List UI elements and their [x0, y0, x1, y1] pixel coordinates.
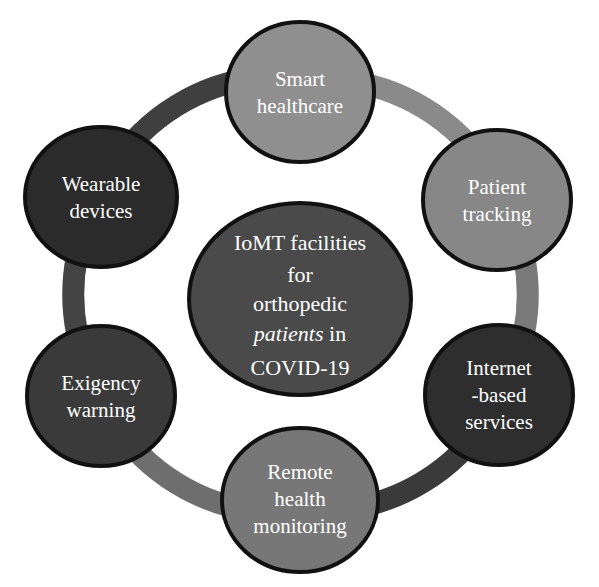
- node-smart-healthcare[interactable]: Smart healthcare: [226, 22, 374, 162]
- center-node-line-2: for: [287, 262, 313, 287]
- node-internet-based-services-label-line-1: Internet: [466, 356, 531, 380]
- center-node-line-3: orthopedic: [253, 291, 347, 316]
- center-node[interactable]: IoMT facilities for orthopedic patients …: [189, 203, 411, 395]
- arc-exigency-wearable: [73, 256, 77, 333]
- node-smart-healthcare-label-line-2: healthcare: [257, 94, 343, 118]
- center-node-line-4: patients in: [252, 321, 346, 346]
- node-smart-healthcare-label-line-1: Smart: [275, 67, 325, 91]
- node-remote-health-monitoring-label-line-2: health: [274, 487, 326, 511]
- center-node-line-1: IoMT facilities: [234, 230, 366, 255]
- node-exigency-warning-label-line-1: Exigency: [61, 371, 141, 395]
- node-exigency-warning-shape: [27, 326, 175, 466]
- arc-patient-internet: [524, 256, 528, 333]
- node-wearable-devices-label-line-1: Wearable: [62, 172, 141, 196]
- node-patient-tracking-label-line-1: Patient: [468, 175, 526, 199]
- node-exigency-warning-label-line-2: warning: [67, 398, 136, 422]
- node-patient-tracking[interactable]: Patient tracking: [423, 130, 571, 270]
- center-node-line-5: COVID-19: [251, 355, 350, 380]
- node-remote-health-monitoring-label-line-3: monitoring: [253, 514, 347, 538]
- diagram-canvas: IoMT facilities for orthopedic patients …: [0, 0, 599, 587]
- node-smart-healthcare-shape: [226, 22, 374, 162]
- node-exigency-warning[interactable]: Exigency warning: [27, 326, 175, 466]
- center-node-line-4-italic: patients: [252, 321, 324, 346]
- node-patient-tracking-label-line-2: tracking: [463, 202, 532, 226]
- node-remote-health-monitoring[interactable]: Remote health monitoring: [222, 428, 378, 572]
- radial-cycle-diagram: IoMT facilities for orthopedic patients …: [0, 0, 599, 587]
- node-wearable-devices-label-line-2: devices: [70, 199, 133, 223]
- node-wearable-devices-shape: [25, 127, 177, 267]
- node-remote-health-monitoring-label-line-1: Remote: [267, 460, 332, 484]
- node-wearable-devices[interactable]: Wearable devices: [25, 127, 177, 267]
- node-patient-tracking-shape: [423, 130, 571, 270]
- node-internet-based-services-label-line-3: services: [465, 410, 533, 434]
- node-internet-based-services[interactable]: Internet -based services: [425, 325, 573, 465]
- node-internet-based-services-label-line-2: -based: [472, 383, 527, 407]
